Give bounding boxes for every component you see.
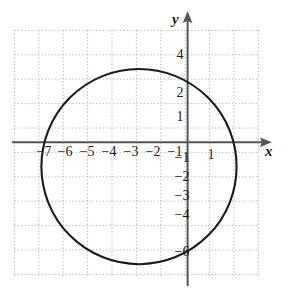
y-tick-label-2: 2 [177,86,184,100]
y-tick-label-4: 4 [177,48,184,62]
x-axis-label: x [265,144,273,159]
y-tick-label--3: −3 [175,189,190,203]
y-tick-label--4: −4 [175,208,190,222]
y-tick-label--1: −1 [175,151,190,165]
x-tick-label--7: −7 [37,145,52,159]
x-tick-label--5: −5 [80,145,95,159]
y-tick-label--6: −6 [175,245,190,259]
circle-curve [41,69,236,264]
x-tick-label-1: 1 [208,148,215,162]
y-tick-label--2: −2 [175,170,190,184]
graph-figure: y x −7 −6 −5 −4 −3 −2 −1 1 4 2 1 −1 −2 −… [0,0,288,290]
x-tick-label--4: −4 [102,145,117,159]
x-tick-label--3: −3 [124,145,139,159]
x-tick-label--2: −2 [146,145,161,159]
x-tick-label--6: −6 [58,145,73,159]
y-axis-label: y [172,12,179,27]
y-tick-label-1: 1 [177,110,184,124]
